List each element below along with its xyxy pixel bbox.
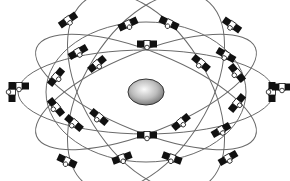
earth <box>128 79 164 105</box>
satellite-icon <box>226 63 246 84</box>
satellite-icon <box>47 67 67 88</box>
earth-globe <box>128 79 164 105</box>
satellite-icon <box>157 16 179 33</box>
satellite-icon <box>137 132 157 141</box>
orbit-diagram-canvas <box>0 0 290 181</box>
satellite-icon <box>55 154 77 171</box>
satellite-icon <box>190 54 211 74</box>
satellite-icon <box>68 44 90 62</box>
satellite-icon <box>63 114 84 134</box>
satellite-icon <box>137 41 157 50</box>
satellite-icon <box>58 11 80 30</box>
satellite-constellation-diagram <box>0 0 290 181</box>
satellite-icon <box>117 17 139 34</box>
satellite-icon <box>161 151 183 167</box>
satellite-icon <box>218 150 240 168</box>
